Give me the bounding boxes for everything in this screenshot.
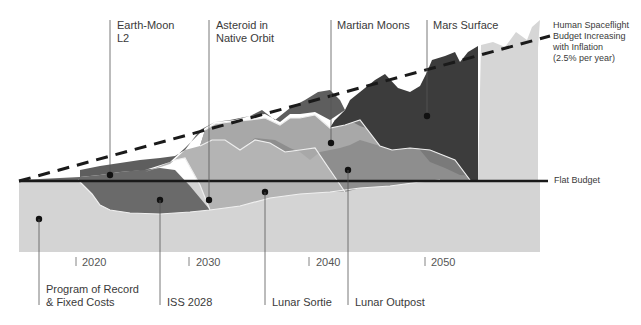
label-earth-moon-l2: Earth-Moon L2 <box>117 19 174 45</box>
label-line: Earth-Moon <box>117 19 174 32</box>
label-line: (2.5% per year) <box>553 53 629 64</box>
tick-label-2040: 2040 <box>316 256 340 268</box>
label-lunar-sortie: Lunar Sortie <box>272 296 332 309</box>
label-line: Asteroid in <box>216 19 274 32</box>
tick-label-2050: 2050 <box>431 256 455 268</box>
label-mars-surface: Mars Surface <box>433 19 498 32</box>
dot-earth-moon-l2 <box>107 172 113 178</box>
label-lunar-outpost: Lunar Outpost <box>355 296 425 309</box>
label-inflation-budget: Human Spaceflight Budget Increasing with… <box>553 20 629 64</box>
label-line: & Fixed Costs <box>46 296 139 309</box>
label-line: Human Spaceflight <box>553 20 629 31</box>
dot-mars-surface <box>424 113 430 119</box>
label-asteroid: Asteroid in Native Orbit <box>216 19 274 45</box>
label-martian-moons: Martian Moons <box>337 19 410 32</box>
label-line: Program of Record <box>46 283 139 296</box>
dot-asteroid <box>206 197 212 203</box>
label-line: Budget Increasing <box>553 31 629 42</box>
label-program-of-record: Program of Record & Fixed Costs <box>46 283 139 309</box>
label-iss: ISS 2028 <box>167 296 212 309</box>
label-line: Native Orbit <box>216 32 274 45</box>
area-future-budget <box>478 20 540 180</box>
dot-martian-moons <box>328 140 334 146</box>
label-flat-budget: Flat Budget <box>554 175 600 186</box>
budget-area-chart <box>0 0 641 325</box>
label-line: with Inflation <box>553 42 629 53</box>
label-line: L2 <box>117 32 174 45</box>
tick-label-2020: 2020 <box>82 256 106 268</box>
tick-label-2030: 2030 <box>196 256 220 268</box>
